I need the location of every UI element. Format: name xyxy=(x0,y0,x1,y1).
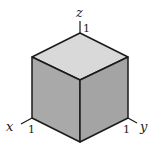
y-axis-tick: 1 xyxy=(123,123,130,136)
unit-cube-diagram: z 1 x 1 1 y xyxy=(0,0,155,152)
x-axis-tick: 1 xyxy=(28,123,35,136)
z-axis-label: z xyxy=(75,5,83,20)
x-axis-label: x xyxy=(6,119,14,134)
y-axis-label: y xyxy=(139,119,148,134)
z-axis-tick: 1 xyxy=(83,22,90,35)
